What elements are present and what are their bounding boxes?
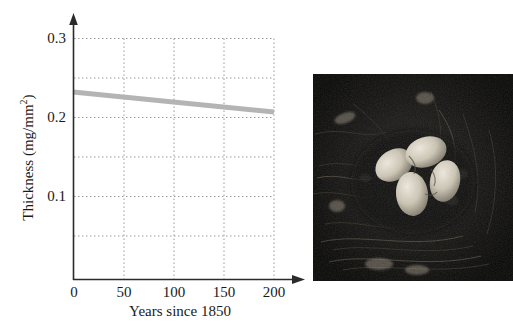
figure-page: 0.3 0.2 0.1 0 50 100 150 200 Thickness (… [0, 0, 513, 336]
y-axis-title-exponent: 2 [18, 99, 29, 104]
x-tick-label-50: 50 [102, 285, 146, 300]
x-tick-label-150: 150 [202, 285, 246, 300]
x-axis-title: Years since 1850 [60, 303, 300, 320]
y-tick-label-0-3: 0.3 [26, 31, 66, 46]
y-axis-title: Thickness (mg/mm2) [18, 68, 37, 248]
x-tick-label-0: 0 [52, 285, 96, 300]
y-axis [69, 13, 78, 280]
x-axis [73, 275, 305, 284]
bird-nest-with-four-eggs-photo [313, 74, 513, 281]
eggshell-thickness-line-chart: 0.3 0.2 0.1 0 50 100 150 200 Thickness (… [0, 0, 310, 336]
x-tick-label-200: 200 [252, 285, 296, 300]
horizontal-gridlines [74, 39, 274, 237]
y-axis-title-tail: ) [20, 94, 36, 99]
nest-photo-illustration [313, 74, 513, 281]
vertical-gridlines [124, 39, 274, 280]
x-tick-label-100: 100 [152, 285, 196, 300]
y-axis-title-base: Thickness (mg/mm [20, 104, 36, 220]
